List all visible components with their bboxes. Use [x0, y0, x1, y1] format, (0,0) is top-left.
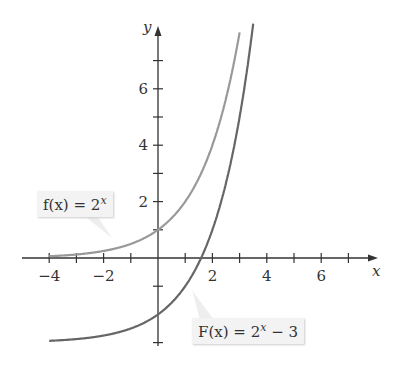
x-tick-label: 4 — [262, 267, 272, 285]
F-pointer — [192, 290, 214, 320]
y-axis-label: y — [142, 18, 152, 36]
y-tick-label: 4 — [138, 136, 148, 154]
F-curve — [49, 24, 253, 341]
F-label: F(x) = 2x − 3 — [192, 318, 304, 344]
f-pointer — [82, 214, 112, 238]
x-tick-label: −2 — [93, 267, 115, 285]
f-label-text: f(x) = 2 — [43, 196, 100, 214]
chart: −4−2246246xy f(x) = 2x F(x) = 2x − 3 — [0, 0, 395, 367]
plot-area: −4−2246246xy — [0, 0, 395, 367]
y-axis-arrow-icon — [155, 26, 162, 36]
F-label-text: F(x) = 2 — [198, 323, 260, 341]
x-tick-label: 2 — [208, 267, 218, 285]
x-tick-label: −4 — [38, 267, 60, 285]
y-tick-label: 6 — [138, 80, 148, 98]
x-axis-label: x — [372, 262, 381, 280]
f-label: f(x) = 2x — [37, 191, 113, 217]
x-axis-arrow-icon — [368, 255, 378, 262]
F-label-tail: − 3 — [266, 323, 298, 341]
x-tick-label: 6 — [316, 267, 326, 285]
f-label-exp: x — [100, 194, 106, 207]
y-tick-label: 2 — [138, 193, 148, 211]
